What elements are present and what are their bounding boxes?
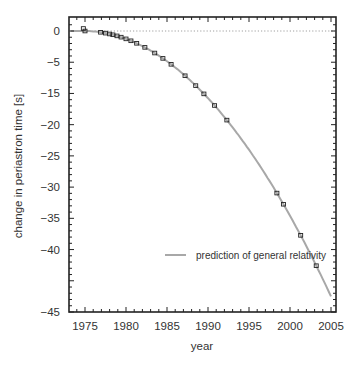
- y-tick-label: −40: [40, 244, 60, 256]
- x-tick-label: 1975: [72, 320, 98, 332]
- y-tick-labels: 0−5−15−20−25−30−35−40−45: [40, 25, 60, 318]
- axes-box: [69, 17, 336, 312]
- x-tick-label: 2005: [318, 320, 344, 332]
- axis-ticks: [69, 17, 336, 312]
- data-markers: [81, 27, 318, 268]
- y-tick-label: −25: [40, 150, 60, 162]
- y-tick-label: −30: [40, 181, 60, 193]
- y-tick-label: −35: [40, 212, 60, 224]
- x-tick-label: 2000: [277, 320, 303, 332]
- plot-frame: [69, 17, 336, 312]
- x-tick-label: 1980: [113, 320, 139, 332]
- y-axis-label: change in periastron time [s]: [12, 94, 24, 238]
- y-tick-label: −5: [47, 56, 60, 68]
- y-tick-label: −20: [40, 119, 60, 131]
- x-tick-label: 1985: [154, 320, 180, 332]
- legend-label: prediction of general relativity: [196, 250, 326, 261]
- y-tick-label: −15: [40, 87, 60, 99]
- x-tick-label: 1990: [195, 320, 221, 332]
- x-tick-labels: 1975198019851990199520002005: [72, 320, 344, 332]
- chart: 1975198019851990199520002005 0−5−15−20−2…: [0, 0, 358, 367]
- x-tick-label: 1995: [236, 320, 262, 332]
- y-tick-label: 0: [54, 25, 60, 37]
- legend: prediction of general relativity: [165, 250, 326, 261]
- x-axis-label: year: [191, 340, 214, 352]
- y-tick-label: −45: [40, 306, 60, 318]
